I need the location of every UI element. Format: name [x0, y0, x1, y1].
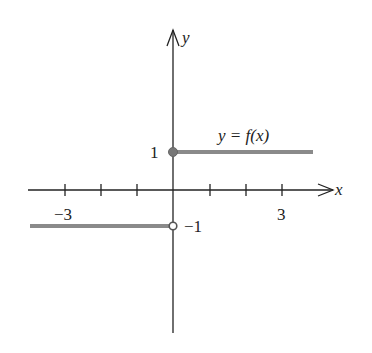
y-axis — [167, 30, 179, 333]
function-label: y = f(x) — [216, 126, 269, 145]
open-point — [169, 222, 177, 230]
x-tick-label-3: 3 — [277, 205, 286, 224]
x-tick-label-neg3: −3 — [54, 205, 72, 224]
y-tick-label-neg1: −1 — [184, 217, 202, 236]
closed-point — [169, 148, 178, 157]
y-tick-label-1: 1 — [150, 143, 159, 162]
step-function-graph: y x −3 3 1 −1 y = f(x) — [0, 0, 372, 353]
y-axis-label: y — [180, 28, 190, 47]
x-axis — [28, 184, 333, 196]
x-axis-label: x — [334, 180, 343, 199]
